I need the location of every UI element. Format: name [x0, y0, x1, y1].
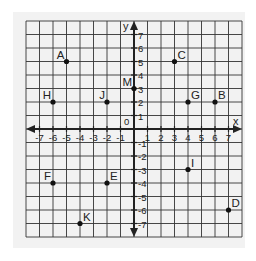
y-axis-label: y — [123, 20, 129, 32]
y-tick-label: 3 — [138, 84, 143, 95]
point-a — [64, 59, 69, 64]
point-e — [104, 180, 109, 185]
x-tick-label: -2 — [103, 132, 111, 143]
point-label-d: D — [232, 197, 240, 209]
point-k — [77, 221, 82, 226]
point-d — [226, 207, 231, 212]
point-label-i: I — [191, 157, 194, 169]
x-tick-label: 6 — [212, 132, 217, 143]
point-f — [50, 180, 55, 185]
point-h — [50, 99, 55, 104]
y-tick-label: 5 — [138, 57, 143, 68]
point-label-m: M — [122, 76, 132, 88]
y-tick-label: -1 — [138, 138, 146, 149]
origin-label: 0 — [124, 116, 129, 127]
y-tick-label: 2 — [138, 97, 143, 108]
y-tick-label: 7 — [138, 30, 143, 41]
x-tick-label: 2 — [158, 132, 163, 143]
point-j — [104, 99, 109, 104]
point-label-j: J — [99, 89, 105, 101]
point-label-a: A — [57, 49, 65, 61]
y-tick-label: -6 — [138, 205, 146, 216]
x-tick-label: 3 — [172, 132, 177, 143]
y-axis-up-arrow-icon — [130, 21, 138, 30]
point-label-h: H — [43, 89, 51, 101]
point-label-e: E — [110, 170, 118, 182]
y-axis-down-arrow-icon — [130, 228, 138, 237]
point-label-f: F — [44, 170, 51, 182]
point-g — [185, 99, 190, 104]
x-tick-label: -5 — [62, 132, 70, 143]
x-tick-label: 4 — [185, 132, 190, 143]
x-tick-label: 7 — [226, 132, 231, 143]
coordinate-grid: xy-7-6-5-4-3-2-11234567-7-6-5-4-3-2-1123… — [0, 0, 256, 261]
y-tick-label: 1 — [138, 111, 143, 122]
x-tick-label: -3 — [89, 132, 97, 143]
x-axis-label: x — [233, 115, 239, 127]
point-m — [131, 86, 136, 91]
y-tick-label: -4 — [138, 178, 146, 189]
x-tick-label: -1 — [116, 132, 124, 143]
x-tick-label: 5 — [199, 132, 204, 143]
y-tick-label: 6 — [138, 43, 143, 54]
point-i — [185, 167, 190, 172]
y-tick-label: -2 — [138, 151, 146, 162]
point-label-g: G — [191, 89, 200, 101]
y-tick-label: -3 — [138, 165, 146, 176]
point-label-b: B — [218, 89, 226, 101]
y-tick-label: -7 — [138, 219, 146, 230]
y-tick-label: 4 — [138, 70, 143, 81]
point-label-c: C — [178, 49, 186, 61]
point-label-k: K — [83, 211, 91, 223]
point-c — [172, 59, 177, 64]
x-tick-label: -6 — [49, 132, 57, 143]
x-tick-label: -7 — [35, 132, 43, 143]
x-axis-left-arrow-icon — [26, 125, 35, 133]
y-tick-label: -5 — [138, 192, 146, 203]
point-b — [212, 99, 217, 104]
x-tick-label: -4 — [76, 132, 84, 143]
